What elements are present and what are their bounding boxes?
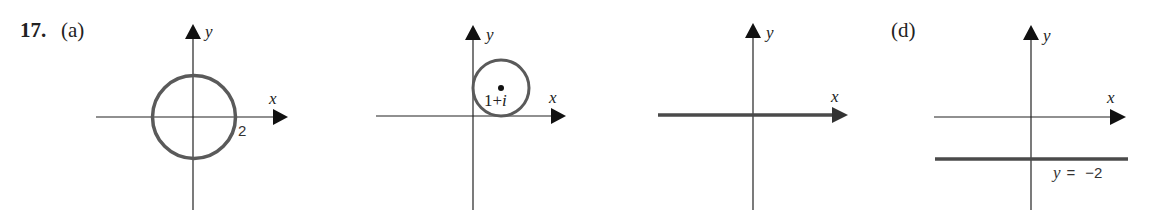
y-axis-label: y [203, 22, 213, 41]
y-axis-arrow-icon [465, 25, 481, 40]
x-axis-arrow-icon [551, 108, 566, 124]
line-annotation: y=−2 [1051, 163, 1102, 182]
figure-canvas: 17. (a) y x 2 y x 1+i y x (d) [0, 0, 1161, 216]
panel-a: y x 2 [96, 22, 288, 210]
x-axis-label: x [268, 89, 277, 108]
panel-d: (d) y x y=−2 [891, 18, 1128, 210]
y-axis-arrow-icon [745, 23, 761, 38]
panel-a-label: (a) [61, 18, 84, 42]
x-axis-arrow-icon [832, 107, 848, 123]
panel-c: y x [658, 23, 848, 210]
panel-b: y x 1+i [376, 25, 566, 210]
x-axis-arrow-icon [273, 109, 288, 125]
y-axis-label: y [764, 23, 774, 42]
x-axis-label: x [548, 88, 557, 107]
center-annotation: 1+i [484, 91, 507, 110]
y-axis-label: y [484, 25, 494, 44]
y-axis-arrow-icon [185, 24, 201, 39]
x-axis-label: x [830, 87, 839, 106]
y-axis-arrow-icon [1023, 25, 1039, 40]
x-axis-label: x [1106, 88, 1115, 107]
x-axis-arrow-icon [1110, 109, 1126, 125]
panel-d-label: (d) [891, 18, 916, 42]
problem-number: 17. [20, 18, 46, 42]
radius-annotation: 2 [238, 122, 246, 139]
y-axis-label: y [1041, 26, 1051, 45]
